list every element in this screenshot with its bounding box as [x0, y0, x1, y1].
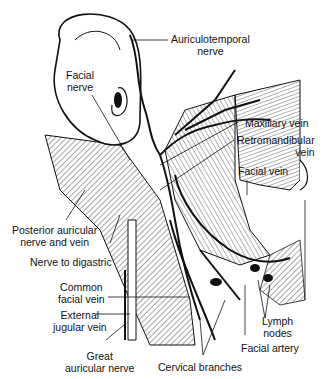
label-line: Nerve to digastric [30, 256, 112, 268]
label-line: Maxillary vein [245, 117, 309, 129]
label-line: Retromandibular [237, 134, 315, 146]
label-line: Cervical branches [158, 361, 242, 373]
label-line: Facial [66, 69, 94, 81]
label-facial-vein: Facial vein [238, 165, 288, 177]
anatomy-diagram: Auriculotemporal nerve Facial nerve Maxi… [0, 0, 330, 379]
label-line: Facial artery [241, 342, 299, 354]
label-line: facial vein [58, 293, 105, 305]
label-line: Common [58, 281, 105, 293]
label-line: Posterior auricular [12, 224, 97, 236]
label-external-jugular-vein: External jugular vein [53, 309, 107, 333]
label-line: nerve [171, 45, 250, 57]
label-facial-nerve: Facial nerve [66, 69, 94, 93]
label-maxillary-vein: Maxillary vein [245, 117, 309, 129]
label-retromandibular-vein: Retromandibular vein [237, 134, 315, 158]
label-line: nerve and vein [12, 236, 97, 248]
label-line: Auriculotemporal [171, 33, 250, 45]
label-line: Great [65, 350, 134, 362]
label-facial-artery: Facial artery [241, 342, 299, 354]
label-nerve-to-digastric: Nerve to digastric [30, 256, 112, 268]
label-posterior-auricular-nerve-and-vein: Posterior auricular nerve and vein [12, 224, 97, 248]
label-lymph-nodes: Lymph nodes [262, 315, 293, 339]
label-line: Facial vein [238, 165, 288, 177]
label-line: vein [237, 146, 315, 158]
label-line: External [53, 309, 107, 321]
label-great-auricular-nerve: Great auricular nerve [65, 350, 134, 374]
label-auriculotemporal-nerve: Auriculotemporal nerve [171, 33, 250, 57]
label-common-facial-vein: Common facial vein [58, 281, 105, 305]
label-line: nerve [66, 81, 94, 93]
label-cervical-branches: Cervical branches [158, 361, 242, 373]
label-line: jugular vein [53, 321, 107, 333]
label-line: nodes [262, 327, 293, 339]
label-line: auricular nerve [65, 362, 134, 374]
label-line: Lymph [262, 315, 293, 327]
